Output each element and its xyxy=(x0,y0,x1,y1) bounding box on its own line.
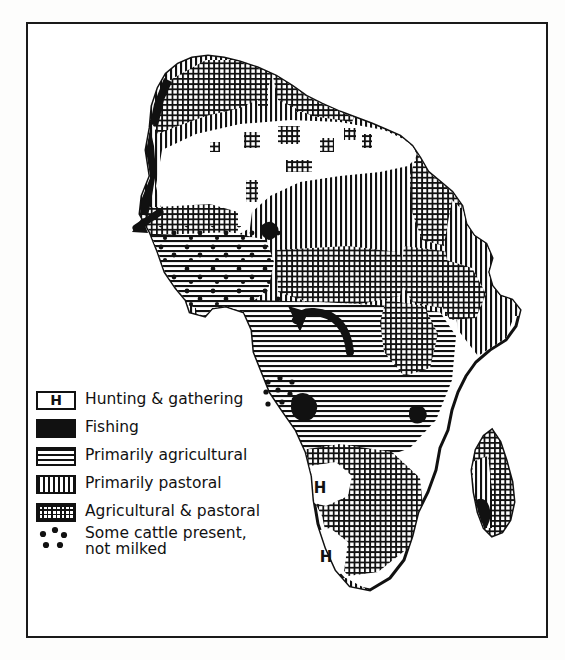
legend-item-agri-pastoral[interactable]: Agricultural & pastoral xyxy=(36,498,286,526)
legend-swatch-agricultural-icon xyxy=(36,447,76,466)
legend-label-hunting: Hunting & gathering xyxy=(85,392,243,408)
madagascar xyxy=(470,426,518,540)
legend-item-agricultural[interactable]: Primarily agricultural xyxy=(36,442,286,470)
legend-label-cattle: Some cattle present, not milked xyxy=(85,526,247,558)
legend-item-fishing[interactable]: Fishing xyxy=(36,414,286,442)
legend-item-cattle[interactable]: Some cattle present, not milked xyxy=(36,526,286,566)
legend-swatch-hunting-box-icon: H xyxy=(36,391,76,410)
legend-item-hunting[interactable]: H Hunting & gathering xyxy=(36,386,286,414)
legend-swatch-fishing-icon xyxy=(36,419,76,438)
legend-label-agricultural: Primarily agricultural xyxy=(85,448,247,464)
map-legend: H Hunting & gathering Fishing Primarily … xyxy=(36,386,286,566)
legend-swatch-agri-pastoral-icon xyxy=(36,503,76,522)
map-h-label-kalahari-north: H xyxy=(314,479,327,497)
legend-swatch-pastoral-icon xyxy=(36,475,76,494)
figure-root: H H H Hunting & gathering Fishing xyxy=(0,0,565,660)
legend-label-agri-pastoral: Agricultural & pastoral xyxy=(85,504,260,520)
legend-swatch-cattle-dots-icon xyxy=(36,526,76,552)
cattle-dots-west-africa xyxy=(140,226,280,306)
legend-label-pastoral: Primarily pastoral xyxy=(85,476,222,492)
legend-item-pastoral[interactable]: Primarily pastoral xyxy=(36,470,286,498)
region-agripastoral-central-sudan xyxy=(276,246,410,304)
legend-label-fishing: Fishing xyxy=(85,420,139,436)
map-h-label-kalahari-south: H xyxy=(320,548,333,566)
